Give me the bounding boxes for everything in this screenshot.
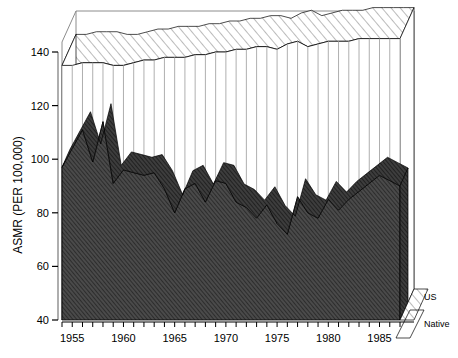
y-tick-label: 140 [31, 46, 49, 58]
x-tick-label: 1960 [111, 332, 135, 344]
x-tick-label: 1980 [316, 332, 340, 344]
x-tick-label: 1970 [214, 332, 238, 344]
x-tick-label: 1955 [60, 332, 84, 344]
x-tick-label: 1965 [162, 332, 186, 344]
y-tick-label: 100 [31, 153, 49, 165]
y-tick-label: 120 [31, 100, 49, 112]
legend-label-native: Native [424, 319, 450, 329]
x-tick-label: 1985 [367, 332, 391, 344]
y-tick-label: 60 [37, 260, 49, 272]
asmr-3d-area-chart: 406080100120140 195519601965197019751980… [0, 0, 458, 358]
y-tick-label: 40 [37, 314, 49, 326]
y-tick-label: 80 [37, 207, 49, 219]
chart-container: 406080100120140 195519601965197019751980… [0, 0, 458, 358]
y-axis: 406080100120140 [31, 46, 58, 326]
y-axis-title: ASMR (PER 100,000) [11, 136, 25, 253]
legend-label-us: US [424, 292, 437, 302]
x-axis: 1955196019651970197519801985 [60, 322, 414, 344]
x-tick-label: 1975 [265, 332, 289, 344]
